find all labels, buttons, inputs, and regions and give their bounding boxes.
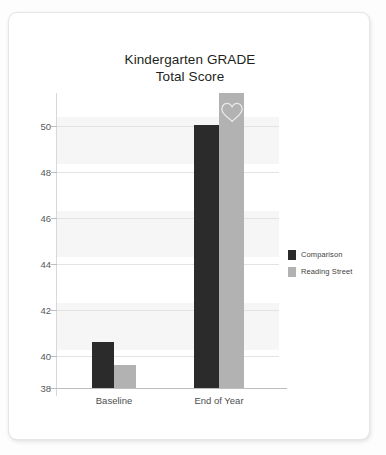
gridline-42	[56, 310, 279, 311]
legend-item-comparison: Comparison	[288, 247, 368, 262]
ytick-mark-50	[51, 126, 57, 127]
ytick-mark-48	[51, 172, 57, 173]
legend-item-reading-street: Reading Street	[288, 264, 368, 279]
ytick-label-44: 44	[27, 259, 51, 270]
ytick-mark-40	[51, 356, 57, 357]
chart-card: Kindergarten GRADE Total Score	[8, 12, 370, 440]
gridline-44	[56, 264, 279, 265]
ytick-label-42: 42	[27, 305, 51, 316]
gridline-46	[56, 218, 279, 219]
band-shade-1	[56, 117, 279, 164]
ytick-mark-42	[51, 310, 57, 311]
ytick-label-46: 46	[27, 213, 51, 224]
gridline-50	[56, 126, 279, 127]
bar-baseline-comparison	[92, 342, 114, 388]
chart-legend: Comparison Reading Street	[288, 247, 368, 281]
y-axis-ticks: 50 48 46 44 42 40 38	[21, 93, 51, 388]
plot-area	[56, 93, 279, 388]
xtick-label-baseline: Baseline	[96, 395, 132, 406]
bar-endofyear-reading-street	[219, 93, 244, 388]
plot-wrapper: 50 48 46 44 42 40 38 Baseline End of Yea…	[9, 13, 371, 441]
gridline-48	[56, 172, 279, 173]
ytick-label-38: 38	[27, 383, 51, 394]
ytick-mark-38	[51, 388, 57, 389]
xtick-label-end-of-year: End of Year	[194, 395, 243, 406]
legend-label-comparison: Comparison	[301, 250, 342, 259]
gridline-40	[56, 356, 279, 357]
bar-endofyear-comparison	[194, 125, 219, 388]
screenshot-root: Kindergarten GRADE Total Score	[0, 0, 386, 455]
x-axis-line	[49, 388, 287, 389]
legend-swatch-reading-street-icon	[288, 267, 296, 277]
ytick-mark-46	[51, 218, 57, 219]
ytick-mark-44	[51, 264, 57, 265]
ytick-label-40: 40	[27, 351, 51, 362]
bar-baseline-reading-street	[114, 365, 136, 388]
legend-swatch-comparison-icon	[288, 250, 296, 260]
legend-label-reading-street: Reading Street	[301, 267, 352, 276]
ytick-label-50: 50	[27, 121, 51, 132]
ytick-label-48: 48	[27, 167, 51, 178]
y-axis-line	[56, 93, 57, 396]
